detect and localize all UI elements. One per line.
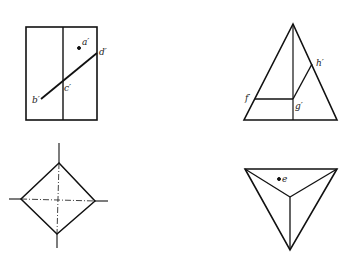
label-h: h′ [316, 58, 324, 68]
label-d: d′ [99, 47, 107, 57]
label-a: a′ [82, 37, 89, 47]
label-e: e [282, 174, 287, 184]
pyramid-front-view [244, 24, 337, 120]
pyramid-outline [244, 24, 337, 120]
projection-diagram: a′ d′ c′ b′ h′ f′ g′ e [0, 0, 359, 259]
prism-top-view [9, 143, 108, 248]
point-a [78, 47, 81, 50]
centerline-vertical [57, 163, 59, 234]
label-f: f′ [244, 93, 250, 103]
point-e [278, 178, 281, 181]
label-c: c′ [64, 83, 71, 93]
label-b: b′ [32, 95, 40, 105]
edge-right [290, 169, 337, 197]
label-g: g′ [295, 101, 303, 111]
triangle-outline [245, 169, 337, 250]
pyramid-top-view [245, 169, 337, 250]
line-gh [293, 64, 312, 99]
